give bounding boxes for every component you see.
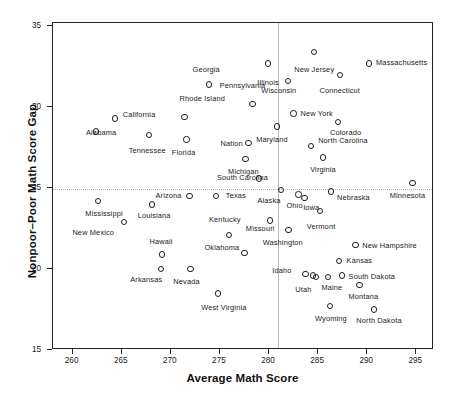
data-point-label: California: [123, 111, 156, 119]
data-point-label: Missouri: [246, 225, 275, 233]
x-axis-tick: [268, 349, 269, 354]
data-point-label: North Dakota: [356, 317, 401, 325]
x-axis-tick: [121, 349, 122, 354]
x-axis-title: Average Math Score: [52, 372, 433, 384]
data-point-label: Hawaii: [149, 238, 172, 246]
x-axis-tick-label: 260: [65, 356, 79, 365]
x-axis-tick-label: 290: [359, 356, 373, 365]
data-point: [327, 303, 333, 309]
data-point-label: New York: [300, 110, 332, 118]
data-point-label: West Virginia: [201, 304, 246, 312]
data-point: [328, 188, 334, 194]
y-axis-tick: [47, 268, 52, 269]
x-axis-tick-label: 265: [114, 356, 128, 365]
data-point: [121, 219, 127, 225]
plot-area: IllinoisNew JerseyMassachusettsConnectic…: [52, 22, 433, 349]
data-point-label: Georgia: [193, 66, 220, 74]
data-point: [159, 251, 165, 257]
data-point-label: Tennessee: [129, 147, 166, 155]
data-point-label: Rhode Island: [180, 95, 225, 103]
reference-line-horizontal: [53, 189, 432, 190]
data-point: [352, 242, 358, 248]
data-point: [366, 60, 372, 66]
data-point-label: Mississippi: [85, 210, 122, 218]
data-point-label: Washington: [263, 239, 303, 247]
data-point-label: Nebraska: [337, 194, 370, 202]
data-point-label: Ohio: [286, 202, 302, 210]
data-point: [302, 271, 308, 277]
data-point-label: Kentucky: [209, 216, 241, 224]
data-point: [95, 198, 101, 204]
data-point-label: Oklahoma: [204, 244, 239, 252]
data-point-label: Utah: [295, 286, 311, 294]
data-point: [335, 119, 341, 125]
data-point: [337, 72, 343, 78]
data-point: [181, 114, 187, 120]
data-point-label: Arkansas: [130, 276, 162, 284]
data-point: [320, 154, 326, 160]
data-point: [336, 258, 342, 264]
data-point-label: South Dakota: [349, 273, 396, 281]
data-point-label: New Mexico: [72, 229, 114, 237]
data-point: [249, 101, 255, 107]
data-point: [146, 132, 152, 138]
data-point-label: Connecticut: [319, 87, 360, 95]
reference-line-vertical: [278, 23, 279, 348]
data-point-label: Vermont: [307, 223, 336, 231]
data-point-label: Wyoming: [315, 315, 347, 323]
data-point: [215, 290, 221, 296]
data-point-label: Montana: [348, 293, 378, 301]
data-point-label: Nevada: [173, 278, 199, 286]
data-point: [226, 232, 232, 238]
data-point-label: Minnesota: [390, 192, 425, 200]
y-axis-tick-label: 15: [32, 345, 41, 354]
data-point-label: Maine: [321, 284, 342, 292]
data-point: [313, 274, 319, 280]
data-point: [213, 193, 219, 199]
data-point-label: Nation: [221, 140, 243, 148]
data-point: [158, 266, 164, 272]
data-point: [112, 115, 118, 121]
data-point-label: Texas: [226, 192, 246, 200]
x-axis-tick: [170, 349, 171, 354]
scatter-plot-figure: IllinoisNew JerseyMassachusettsConnectic…: [0, 0, 450, 399]
x-axis-tick-label: 270: [163, 356, 177, 365]
x-axis-tick-label: 295: [408, 356, 422, 365]
data-point-label: South Carolina: [217, 174, 268, 182]
data-point-label: Kansas: [347, 257, 373, 265]
data-point: [241, 250, 247, 256]
x-axis-tick-label: 275: [212, 356, 226, 365]
data-point: [356, 282, 362, 288]
data-point: [274, 123, 280, 129]
data-point: [311, 49, 317, 55]
data-point: [290, 110, 296, 116]
x-axis-tick: [366, 349, 367, 354]
x-axis-tick-label: 285: [310, 356, 324, 365]
data-point: [339, 272, 345, 278]
data-point: [245, 140, 251, 146]
data-point: [242, 156, 248, 162]
y-axis-title: Nonpoor–Poor Math Score Gap: [26, 41, 38, 341]
data-point-label: New Hampshire: [362, 242, 417, 250]
data-point: [187, 266, 193, 272]
data-point-label: North Carolina: [318, 137, 368, 145]
y-axis-tick-label: 35: [32, 21, 41, 30]
data-point-label: Arizona: [156, 192, 182, 200]
data-point: [265, 60, 271, 66]
data-point: [206, 81, 212, 87]
data-point-label: Maryland: [256, 136, 288, 144]
data-point: [149, 201, 155, 207]
data-point: [186, 193, 192, 199]
data-point: [278, 187, 284, 193]
y-axis-tick: [47, 25, 52, 26]
x-axis-tick: [219, 349, 220, 354]
x-axis-tick: [415, 349, 416, 354]
data-point: [325, 274, 331, 280]
y-axis-tick: [47, 106, 52, 107]
data-point: [183, 136, 189, 142]
data-point-label: Alaska: [257, 197, 280, 205]
data-point: [301, 195, 307, 201]
data-point: [317, 208, 323, 214]
data-point-label: Massachusetts: [376, 59, 427, 67]
x-axis-tick-label: 280: [261, 356, 275, 365]
